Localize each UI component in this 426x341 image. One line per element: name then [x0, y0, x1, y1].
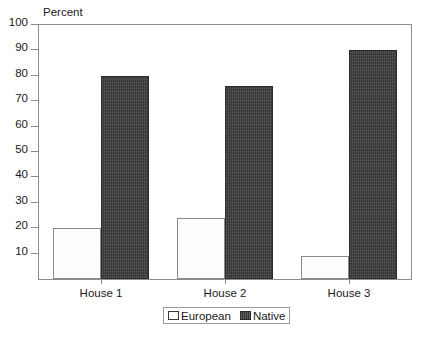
legend-label: European	[181, 310, 231, 322]
y-axis-tick-label: 100	[9, 17, 28, 29]
y-axis-tick-mark	[31, 151, 38, 152]
bar-european-3	[301, 256, 349, 279]
y-axis-tick-mark	[31, 49, 38, 50]
bar-european-1	[53, 228, 101, 279]
x-axis-category: House 1	[39, 280, 163, 306]
y-axis-tick-label: 20	[15, 220, 28, 232]
legend-swatch-native-icon	[240, 311, 251, 320]
y-axis-tick-mark	[31, 253, 38, 254]
x-axis-tick-label: House 2	[163, 287, 287, 300]
x-axis-category: House 3	[287, 280, 411, 306]
bar-native-2	[225, 86, 273, 279]
y-axis-tick-label: 10	[15, 246, 28, 258]
bar-native-3	[349, 50, 397, 279]
bar-chart: Percent 100908070605040302010 House 1Hou…	[0, 0, 426, 341]
legend-label: Native	[253, 310, 286, 322]
legend-item-native[interactable]: Native	[240, 310, 286, 322]
bar-european-2	[177, 218, 225, 279]
x-axis: House 1House 2House 3	[39, 280, 411, 306]
y-axis-tick-mark	[31, 227, 38, 228]
y-axis-tick-label: 70	[15, 93, 28, 105]
legend-swatch-european-icon	[168, 311, 179, 320]
y-axis-title: Percent	[43, 6, 83, 19]
y-axis-tick-mark	[31, 202, 38, 203]
y-axis-tick-mark	[31, 126, 38, 127]
x-axis-tick-label: House 3	[287, 287, 411, 300]
y-axis-tick-mark	[31, 24, 38, 25]
y-axis: 100908070605040302010	[0, 24, 38, 280]
chart-legend: EuropeanNative	[163, 307, 290, 324]
x-axis-tick-label: House 1	[39, 287, 163, 300]
bars-layer	[39, 25, 411, 279]
y-axis-tick-label: 90	[15, 42, 28, 54]
x-axis-tick-mark	[349, 280, 350, 284]
y-axis-tick-label: 60	[15, 119, 28, 131]
y-axis-tick-label: 80	[15, 68, 28, 80]
x-axis-tick-mark	[225, 280, 226, 284]
bar-native-1	[101, 76, 149, 279]
y-axis-tick-mark	[31, 75, 38, 76]
legend-item-european[interactable]: European	[168, 310, 231, 322]
y-axis-tick-label: 50	[15, 144, 28, 156]
y-axis-tick-label: 30	[15, 195, 28, 207]
x-axis-tick-mark	[101, 280, 102, 284]
x-axis-category: House 2	[163, 280, 287, 306]
y-axis-tick-mark	[31, 176, 38, 177]
y-axis-tick-mark	[31, 100, 38, 101]
y-axis-tick-label: 40	[15, 169, 28, 181]
